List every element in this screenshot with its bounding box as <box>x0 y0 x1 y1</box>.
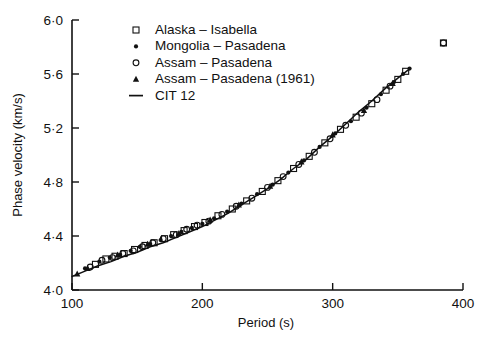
y-axis-ticks: 4·04·44·85·25·66·0 <box>43 13 79 298</box>
marker-open-circle <box>374 97 380 103</box>
legend-label: Mongolia – Pasadena <box>155 38 286 53</box>
y-tick-label: 4·8 <box>43 175 63 190</box>
cit12-fit-curve <box>72 70 408 277</box>
x-tick-label: 400 <box>452 296 475 311</box>
marker-filled-dot <box>364 106 368 110</box>
marker-open-square <box>133 27 139 33</box>
legend-label: CIT 12 <box>155 88 195 103</box>
y-tick-label: 4·4 <box>43 229 63 244</box>
marker-filled-dot <box>286 170 290 174</box>
y-tick-label: 5·6 <box>43 67 63 82</box>
marker-filled-dot <box>212 216 216 220</box>
marker-filled-dot <box>318 145 322 149</box>
y-axis-label: Phase velocity (km/s) <box>10 93 25 217</box>
marker-filled-dot <box>225 210 229 214</box>
marker-filled-dot <box>407 67 411 71</box>
marker-filled-dot <box>190 226 194 230</box>
x-tick-label: 300 <box>321 296 344 311</box>
y-tick-label: 6·0 <box>43 13 63 28</box>
series-points <box>74 80 396 276</box>
marker-filled-dot <box>401 72 405 76</box>
figure-container: 4·04·44·85·25·66·0 100200300400 Phase ve… <box>0 0 496 342</box>
marker-open-circle <box>441 40 447 46</box>
marker-filled-dot <box>379 92 383 96</box>
marker-filled-triangle <box>133 76 139 82</box>
x-tick-label: 200 <box>191 296 214 311</box>
x-axis-label: Period (s) <box>238 315 294 330</box>
x-axis-ticks: 100200300400 <box>61 283 475 311</box>
marker-filled-dot <box>134 44 138 48</box>
y-tick-label: 5·2 <box>43 121 63 136</box>
legend-label: Assam – Pasadena (1961) <box>155 71 315 86</box>
marker-filled-dot <box>349 119 353 123</box>
marker-open-circle <box>133 60 139 66</box>
x-tick-label: 100 <box>61 296 84 311</box>
series-points <box>83 67 412 271</box>
chart-legend: Alaska – IsabellaMongolia – PasadenaAssa… <box>129 22 315 103</box>
legend-label: Assam – Pasadena <box>155 55 273 70</box>
dispersion-curve-chart: 4·04·44·85·25·66·0 100200300400 Phase ve… <box>0 0 496 342</box>
legend-label: Alaska – Isabella <box>155 22 258 37</box>
marker-filled-dot <box>169 234 173 238</box>
marker-filled-dot <box>255 192 259 196</box>
marker-filled-dot <box>200 222 204 226</box>
fit-line-cit12 <box>72 70 408 277</box>
